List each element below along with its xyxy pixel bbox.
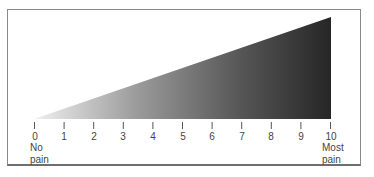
tick-label-9: 9 — [298, 131, 304, 142]
tick-label-7: 7 — [239, 131, 245, 142]
tick-marks — [35, 122, 331, 129]
tick-label-10: 10 — [325, 131, 336, 142]
min-label: No pain — [30, 142, 49, 166]
min-label-line1: No — [30, 142, 49, 154]
tick-label-8: 8 — [268, 131, 274, 142]
tick-label-2: 2 — [91, 131, 97, 142]
pain-scale-wedge — [0, 0, 374, 177]
tick-label-1: 1 — [61, 131, 67, 142]
min-label-line2: pain — [30, 154, 49, 166]
tick-label-5: 5 — [180, 131, 186, 142]
tick-label-3: 3 — [120, 131, 126, 142]
max-label-line2: pain — [322, 154, 344, 166]
max-label-line1: Most — [322, 142, 344, 154]
pain-wedge — [34, 17, 331, 119]
tick-label-6: 6 — [209, 131, 215, 142]
tick-label-0: 0 — [32, 131, 38, 142]
tick-label-4: 4 — [150, 131, 156, 142]
max-label: Most pain — [322, 142, 344, 166]
